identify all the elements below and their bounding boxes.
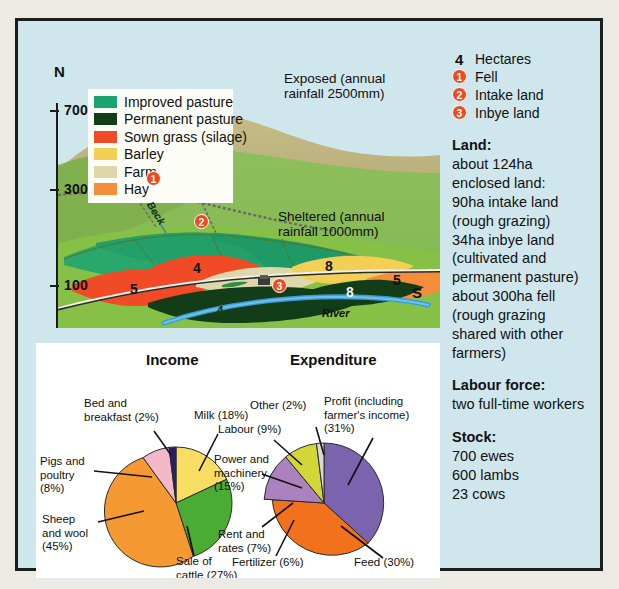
land-line-9: (rough grazing [452,306,604,325]
charts-panel: Income Expenditure [36,343,440,578]
labour-line-1: two full-time workers [452,395,604,414]
key-item-fell: 1 Fell [452,69,604,86]
income-label-cattle-line1: Sale of [176,555,237,569]
elevation-axis [56,103,58,328]
field-number-permanent-pasture-right: 8 [346,284,354,300]
key-label-inbye-land: Inbye land [475,105,540,122]
income-label-bb-line1: Bed and [84,397,159,411]
legend-label-sown-grass: Sown grass (silage) [124,130,247,144]
legend-swatch-permanent-pasture [94,113,117,125]
land-line-1: about 124ha [452,155,604,174]
land-line-3: 90ha intake land [452,193,604,212]
legend-label-barley: Barley [124,147,164,161]
axis-tick-100 [50,285,59,287]
income-label-pigs-line1: Pigs and [40,455,85,469]
legend-item-barley: Barley [94,146,227,164]
axis-label-300: 300 [64,181,88,197]
stock-heading: Stock: [452,428,604,447]
legend-label-improved-pasture: Improved pasture [124,95,233,109]
expenditure-label-feed: Feed (30%) [354,556,414,570]
axis-label-700: 700 [64,102,88,118]
expenditure-label-power-line2: machinery [214,467,269,481]
annotation-exposed-line1: Exposed (annual [284,71,385,86]
land-line-11: farmers) [452,344,604,363]
income-label-bb-line2: breakfast (2%) [84,411,159,425]
income-label-pigs-and-poultry: Pigs and poultry (8%) [40,455,85,496]
expenditure-label-profit-line1: Profit (including [324,395,409,409]
expenditure-label-fertilizer: Fertilizer (6%) [232,556,304,570]
map-legend: Improved pasture Permanent pasture Sown … [88,89,233,203]
field-number-sown-grass-left: 5 [130,281,138,297]
land-line-5: 34ha inbye land [452,231,604,250]
stock-line-1: 700 ewes [452,447,604,466]
field-number-barley: 8 [325,258,333,274]
land-heading: Land: [452,136,604,155]
expenditure-label-rent-and-rates: Rent and rates (7%) [218,528,271,555]
expenditure-label-other: Other (2%) [250,399,306,413]
annotation-river: River [322,307,350,319]
key-label-intake-land: Intake land [475,87,544,104]
income-label-sheep-and-wool: Sheep and wool (45%) [42,513,88,554]
legend-swatch-improved-pasture [94,96,117,108]
legend-label-permanent-pasture: Permanent pasture [124,112,243,126]
land-line-10: shared with other [452,325,604,344]
expenditure-label-profit: Profit (including farmer's income) (31%) [324,395,409,436]
key-label-fell: Fell [475,69,498,86]
income-label-bed-and-breakfast: Bed and breakfast (2%) [84,397,159,424]
land-line-6: (cultivated and [452,249,604,268]
legend-swatch-sown-grass [94,131,117,143]
field-number-sown-grass-upper: 4 [193,260,201,276]
key-item-hectares: 4 Hectares [452,51,604,68]
key-badge-3: 3 [452,105,467,120]
land-line-2: enclosed land: [452,174,604,193]
map-badge-intake-land[interactable]: 2 [194,214,209,229]
key-item-inbye-land: 3 Inbye land [452,105,604,122]
info-column: 4 Hectares 1 Fell 2 Intake land 3 [452,51,604,504]
labour-heading: Labour force: [452,376,604,395]
legend-swatch-barley [94,148,117,160]
legend-label-hay: Hay [124,182,149,196]
legend-item-improved-pasture: Improved pasture [94,93,227,111]
compass-south: S [412,284,422,301]
income-label-sheep-line3: (45%) [42,540,88,554]
income-label-sheep-line2: and wool [42,527,88,541]
income-label-pigs-line3: (8%) [40,482,85,496]
expenditure-label-power-and-machinery: Power and machinery (15%) [214,453,269,494]
income-label-cattle-line2: cattle (27%) [176,569,237,578]
stock-info-block: Stock: 700 ewes 600 lambs 23 cows [452,428,604,503]
annotation-sheltered-line2: rainfall 1000mm) [278,224,385,239]
legend-item-hay: Hay [94,181,227,199]
annotation-exposed-line2: rainfall 2500mm) [284,86,385,101]
legend-item-sown-grass: Sown grass (silage) [94,128,227,146]
legend-swatch-farm [94,166,117,178]
expenditure-label-rent-line1: Rent and [218,528,271,542]
legend-item-permanent-pasture: Permanent pasture [94,111,227,129]
stock-line-3: 23 cows [452,485,604,504]
land-line-7: permanent pasture) [452,268,604,287]
land-line-4: (rough grazing) [452,212,604,231]
map-badge-fell[interactable]: 1 [146,171,161,186]
expenditure-label-power-line1: Power and [214,453,269,467]
expenditure-label-power-line3: (15%) [214,480,269,494]
key-badge-2: 2 [452,87,467,102]
key-mark-hectares: 4 [452,51,475,68]
map-badge-inbye-land[interactable]: 3 [272,278,287,293]
key-mark-intake-land: 2 [452,87,475,102]
labour-info-block: Labour force: two full-time workers [452,376,604,414]
income-label-pigs-line2: poultry [40,469,85,483]
field-number-permanent-pasture-bottom: 4 [216,303,224,319]
land-line-8: about 300ha fell [452,287,604,306]
compass-north: N [54,63,65,80]
expenditure-label-profit-line3: (31%) [324,422,409,436]
legend-swatch-hay [94,183,117,195]
annotation-sheltered: Sheltered (annual rainfall 1000mm) [278,209,385,239]
income-label-milk: Milk (18%) [194,409,248,423]
expenditure-label-profit-line2: farmer's income) [324,409,409,423]
income-label-sheep-line1: Sheep [42,513,88,527]
axis-tick-700 [50,110,59,112]
income-label-sale-of-cattle: Sale of cattle (27%) [176,555,237,578]
expenditure-label-rent-line2: rates (7%) [218,542,271,556]
landscape-diagram: 700 300 100 m N S Improved pasture Perma… [36,47,440,328]
field-number-hay: 5 [393,272,401,288]
annotation-sheltered-line1: Sheltered (annual [278,209,385,224]
